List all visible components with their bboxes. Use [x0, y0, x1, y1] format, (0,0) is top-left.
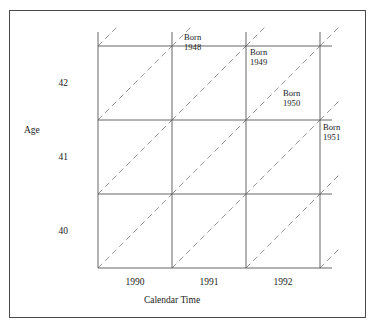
cohort-diagonal-1949 [98, 120, 172, 194]
cohort-year-1950: 1950 [283, 98, 300, 108]
cohort-diagonal-1948-b [172, 120, 246, 194]
cohort-word-1948: Born [184, 32, 201, 42]
cohort-diagonal-1952-b [320, 174, 340, 194]
cohort-diagonal-1953 [320, 248, 340, 268]
cohort-diagonal-1951 [172, 194, 246, 268]
x-tick-1990: 1990 [115, 277, 155, 288]
x-tick-1992: 1992 [263, 277, 303, 288]
cohort-label-1951: Born 1951 [323, 122, 340, 143]
y-tick-42: 42 [44, 78, 68, 89]
cohort-diagonal-1948-d [320, 26, 340, 46]
cohort-year-1949: 1949 [250, 57, 267, 67]
cohort-diagonal-1949-c [246, 26, 266, 46]
cohort-year-1948: 1948 [184, 42, 201, 52]
cohort-year-1951: 1951 [323, 132, 340, 142]
x-axis-title: Calendar Time [144, 295, 200, 306]
cohort-label-1950: Born 1950 [283, 88, 300, 109]
cohort-diagonal-1949-b [172, 46, 246, 120]
cohort-label-1948: Born 1948 [184, 32, 201, 53]
cohort-diagonal-1950 [98, 46, 172, 120]
cohort-diagonal-topleft [98, 26, 118, 46]
lexis-diagram-figure: 42 41 40 Age 1990 1991 1992 Calendar Tim… [0, 0, 374, 331]
cohort-diagonal-1948 [98, 194, 172, 268]
y-tick-40: 40 [44, 226, 68, 237]
y-axis-title: Age [24, 125, 40, 136]
y-tick-41: 41 [44, 152, 68, 163]
x-tick-1991: 1991 [189, 277, 229, 288]
cohort-word-1950: Born [283, 88, 300, 98]
cohort-diagonal-1951-b [246, 120, 320, 194]
cohort-label-1949: Born 1949 [250, 47, 267, 68]
cohort-word-1949: Born [250, 47, 267, 57]
cohort-diagonal-1951-c [320, 100, 340, 120]
cohort-word-1951: Born [323, 122, 340, 132]
cohort-diagonal-1952 [246, 194, 320, 268]
